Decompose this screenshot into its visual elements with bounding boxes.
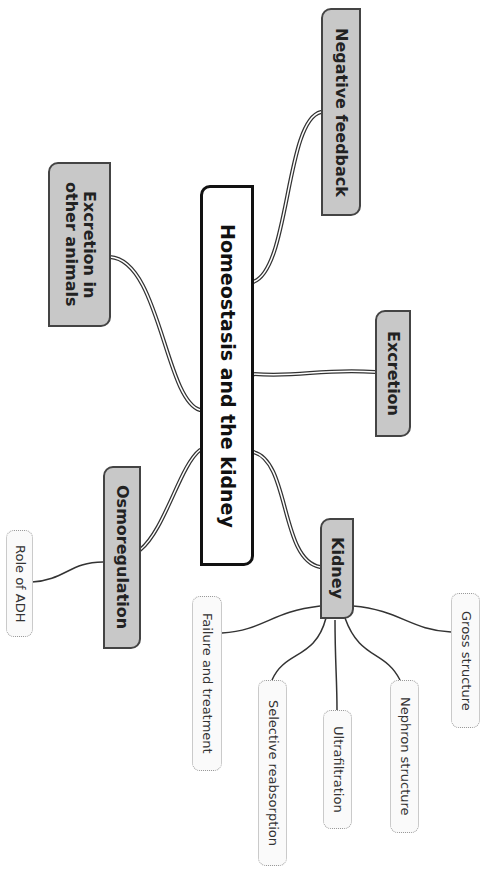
leaf-gross-structure[interactable]: Gross structure <box>451 593 480 728</box>
branch-negative-feedback[interactable]: Negative feedback <box>321 8 361 216</box>
leaf-selective-reabsorption[interactable]: Selective reabsorption <box>258 680 287 866</box>
branch-label: Osmoregulation <box>113 485 131 629</box>
central-node-label: Homeostasis and the kidney <box>216 224 238 528</box>
leaf-failure-and-treatment[interactable]: Failure and treatment <box>192 596 222 771</box>
branch-kidney[interactable]: Kidney <box>320 518 354 619</box>
leaf-label: Ultrafiltration <box>330 726 345 813</box>
branch-label: Negative feedback <box>332 28 350 197</box>
leaf-role-of-adh[interactable]: Role of ADH <box>6 530 33 637</box>
branch-osmoregulation[interactable]: Osmoregulation <box>103 466 141 649</box>
branch-label: Kidney <box>328 537 346 599</box>
branch-excretion-other-animals[interactable]: Excretion in other animals <box>48 162 111 327</box>
leaf-label: Gross structure <box>458 611 473 711</box>
branch-label: Excretion in other animals <box>61 170 98 320</box>
leaf-label: Failure and treatment <box>200 613 215 754</box>
central-node[interactable]: Homeostasis and the kidney <box>200 185 254 566</box>
leaf-nephron-structure[interactable]: Nephron structure <box>390 680 419 833</box>
leaf-label: Nephron structure <box>397 697 412 816</box>
leaf-label: Selective reabsorption <box>265 700 280 846</box>
leaf-ultrafiltration[interactable]: Ultrafiltration <box>323 710 352 829</box>
leaf-label: Role of ADH <box>12 545 27 623</box>
branch-excretion[interactable]: Excretion <box>375 310 411 437</box>
branch-label: Excretion <box>384 331 402 416</box>
